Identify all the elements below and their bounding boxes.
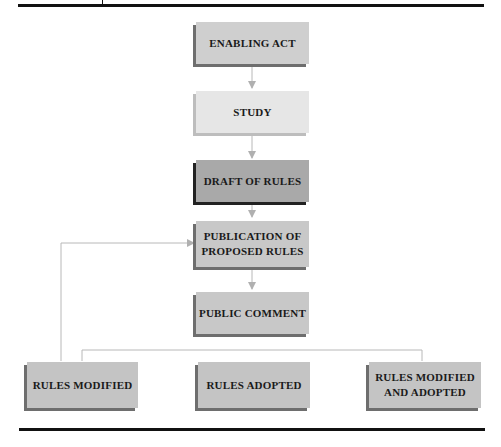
node-label-line2: AND ADOPTED — [384, 385, 466, 400]
node-label-line2: PROPOSED RULES — [201, 244, 303, 259]
node-rules-modified-and-adopted: RULES MODIFIED AND ADOPTED — [369, 362, 481, 408]
feedback-arrow — [61, 243, 194, 361]
node-label: RULES MODIFIED — [33, 378, 133, 393]
node-rules-modified: RULES MODIFIED — [27, 362, 138, 408]
node-study: STUDY — [196, 91, 309, 133]
node-publication-of-proposed-rules: PUBLICATION OF PROPOSED RULES — [196, 221, 309, 267]
node-label: STUDY — [233, 105, 271, 120]
node-public-comment: PUBLIC COMMENT — [196, 292, 309, 334]
node-rules-adopted: RULES ADOPTED — [198, 362, 310, 408]
node-label: DRAFT OF RULES — [204, 174, 302, 189]
node-draft-of-rules: DRAFT OF RULES — [196, 160, 309, 202]
node-label-line1: PUBLICATION OF — [204, 229, 302, 244]
node-label: RULES ADOPTED — [206, 378, 301, 393]
node-label-line1: RULES MODIFIED — [375, 370, 475, 385]
node-enabling-act: ENABLING ACT — [196, 22, 309, 64]
node-label: ENABLING ACT — [209, 36, 295, 51]
node-label: PUBLIC COMMENT — [199, 306, 306, 321]
